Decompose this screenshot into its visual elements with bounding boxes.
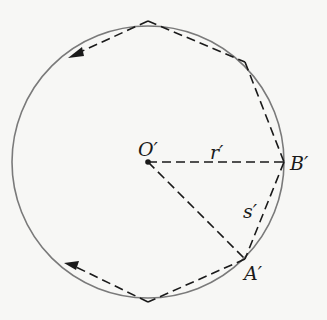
geometry-diagram: O′ r′ B′ s′ A′ <box>0 0 327 320</box>
label-radius: r′ <box>210 141 224 163</box>
edge-a-to-bottom <box>148 259 245 302</box>
edge-bottom-to-lower-left <box>74 266 148 302</box>
edge-upper-right-to-b <box>245 62 284 162</box>
arrow-upper-left-icon <box>68 47 84 58</box>
label-chord: s′ <box>243 200 258 222</box>
label-center: O′ <box>138 138 159 160</box>
center-point <box>145 159 151 165</box>
edge-top-to-upper-right <box>148 21 245 62</box>
arrow-lower-left-icon <box>64 261 79 270</box>
radius-line-oa <box>148 162 245 259</box>
label-point-a: A′ <box>242 262 263 284</box>
label-point-b: B′ <box>289 152 309 174</box>
diagram-canvas: O′ r′ B′ s′ A′ <box>0 0 327 320</box>
